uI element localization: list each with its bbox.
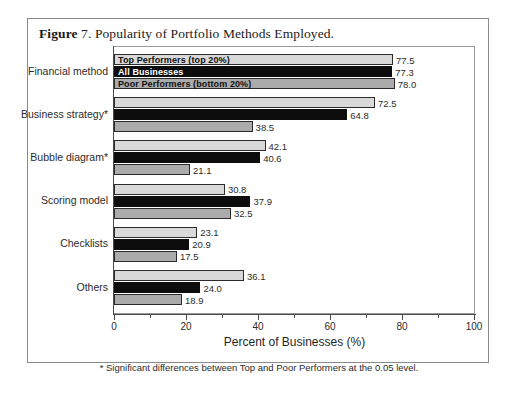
bar-value-label: 32.5 [231, 208, 253, 219]
x-tick-label: 60 [324, 321, 335, 332]
bar-5-1[interactable] [114, 282, 200, 293]
bar-2-1[interactable] [114, 152, 260, 163]
bar-4-2[interactable] [114, 251, 177, 262]
x-tick-minor [366, 315, 367, 318]
bar-row: 77.3All Businesses [114, 66, 474, 77]
x-tick-minor [438, 315, 439, 318]
legend-label-2: Poor Performers (bottom 20%) [118, 79, 251, 89]
bar-row: 30.8 [114, 184, 474, 195]
x-tick-minor [150, 315, 151, 318]
bar-row: 77.5Top Performers (top 20%) [114, 54, 474, 65]
bar-value-label: 77.5 [393, 54, 415, 65]
bar-3-0[interactable] [114, 184, 225, 195]
bar-value-label: 72.5 [375, 97, 397, 108]
bar-row: 64.8 [114, 109, 474, 120]
y-axis-label-3: Scoring model [41, 194, 108, 206]
bar-row: 32.5 [114, 208, 474, 219]
bar-value-label: 42.1 [266, 140, 288, 151]
bar-row: 17.5 [114, 251, 474, 262]
x-tick-major [258, 315, 259, 320]
y-axis-label-5: Others [76, 281, 108, 293]
bars-area: 77.5Top Performers (top 20%)77.3All Busi… [114, 47, 474, 313]
bar-row: 20.9 [114, 239, 474, 250]
x-tick-minor [294, 315, 295, 318]
y-axis-label-1: Business strategy* [21, 108, 108, 120]
x-tick-label: 80 [396, 321, 407, 332]
y-axis-label-0: Financial method [28, 65, 108, 77]
bar-value-label: 78.0 [395, 78, 417, 89]
bar-row: 38.5 [114, 121, 474, 132]
bar-row: 42.1 [114, 140, 474, 151]
bar-value-label: 23.1 [197, 227, 219, 238]
bar-row: 23.1 [114, 227, 474, 238]
bar-2-2[interactable] [114, 164, 190, 175]
x-tick-major [330, 315, 331, 320]
bar-value-label: 18.9 [182, 294, 204, 305]
bar-1-1[interactable] [114, 109, 347, 120]
y-axis-label-4: Checklists [60, 237, 108, 249]
bar-row: 72.5 [114, 97, 474, 108]
y-axis-category-labels: Financial methodBusiness strategy*Bubble… [28, 19, 108, 364]
x-tick-major [402, 315, 403, 320]
bar-value-label: 17.5 [177, 251, 199, 262]
bar-value-label: 20.9 [189, 239, 211, 250]
legend-label-1: All Businesses [118, 67, 183, 77]
x-tick-major [474, 315, 475, 320]
bar-row: 18.9 [114, 294, 474, 305]
y-axis-line [113, 46, 114, 315]
bar-value-label: 64.8 [347, 109, 369, 120]
figure-footnote: * Significant differences between Top an… [28, 362, 490, 373]
bar-value-label: 24.0 [200, 282, 222, 293]
bar-2-0[interactable] [114, 140, 266, 151]
figure-card: Figure 7. Popularity of Portfolio Method… [27, 18, 489, 363]
bar-value-label: 38.5 [253, 121, 275, 132]
bar-row: 24.0 [114, 282, 474, 293]
bar-value-label: 40.6 [260, 152, 282, 163]
bar-5-2[interactable] [114, 294, 182, 305]
x-tick-label: 40 [252, 321, 263, 332]
x-tick-major [114, 315, 115, 320]
y-axis-label-2: Bubble diagram* [30, 151, 108, 163]
bar-value-label: 36.1 [244, 270, 266, 281]
legend-label-0: Top Performers (top 20%) [118, 55, 230, 65]
bar-1-2[interactable] [114, 121, 253, 132]
bar-row: 40.6 [114, 152, 474, 163]
bar-4-1[interactable] [114, 239, 189, 250]
plot-frame: 77.5Top Performers (top 20%)77.3All Busi… [113, 46, 475, 314]
bar-row: 37.9 [114, 196, 474, 207]
bar-value-label: 21.1 [190, 164, 212, 175]
x-axis-title: Percent of Businesses (%) [113, 335, 476, 349]
bar-value-label: 77.3 [392, 66, 414, 77]
bar-1-0[interactable] [114, 97, 375, 108]
x-tick-label: 100 [466, 321, 483, 332]
bar-row: 36.1 [114, 270, 474, 281]
x-tick-major [186, 315, 187, 320]
x-tick-minor [222, 315, 223, 318]
bar-3-2[interactable] [114, 208, 231, 219]
bar-row: 78.0Poor Performers (bottom 20%) [114, 78, 474, 89]
bar-value-label: 30.8 [225, 184, 247, 195]
bar-row: 21.1 [114, 164, 474, 175]
bar-5-0[interactable] [114, 270, 244, 281]
bar-3-1[interactable] [114, 196, 250, 207]
bar-value-label: 37.9 [250, 196, 272, 207]
x-tick-label: 20 [180, 321, 191, 332]
figure-caption-text: 7. Popularity of Portfolio Methods Emplo… [78, 26, 334, 41]
bar-4-0[interactable] [114, 227, 197, 238]
x-tick-label: 0 [111, 321, 117, 332]
